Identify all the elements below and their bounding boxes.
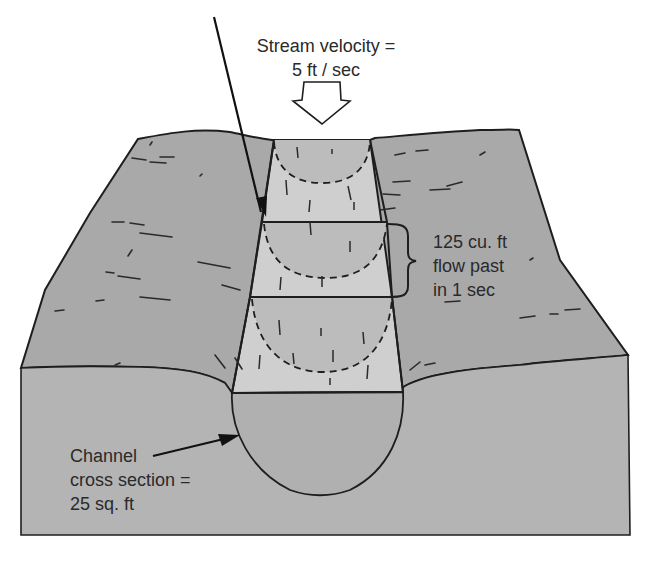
cross-section-line2: cross section = <box>70 468 191 492</box>
cross-section-line3: 25 sq. ft <box>70 492 191 516</box>
flow-volume-line2: flow past <box>433 254 507 278</box>
cross-section-top-line <box>232 392 403 393</box>
stream-velocity-label: Stream velocity = 5 ft / sec <box>226 34 426 82</box>
hollow-down-arrow-icon <box>293 82 350 124</box>
cross-section-line1: Channel <box>70 444 191 468</box>
cross-section-label: Channel cross section = 25 sq. ft <box>70 444 191 516</box>
flow-volume-line3: in 1 sec <box>433 278 507 302</box>
flow-volume-label: 125 cu. ft flow past in 1 sec <box>433 230 507 302</box>
flow-volume-line1: 125 cu. ft <box>433 230 507 254</box>
stream-velocity-line2: 5 ft / sec <box>226 58 426 82</box>
stream-velocity-line1: Stream velocity = <box>226 34 426 58</box>
